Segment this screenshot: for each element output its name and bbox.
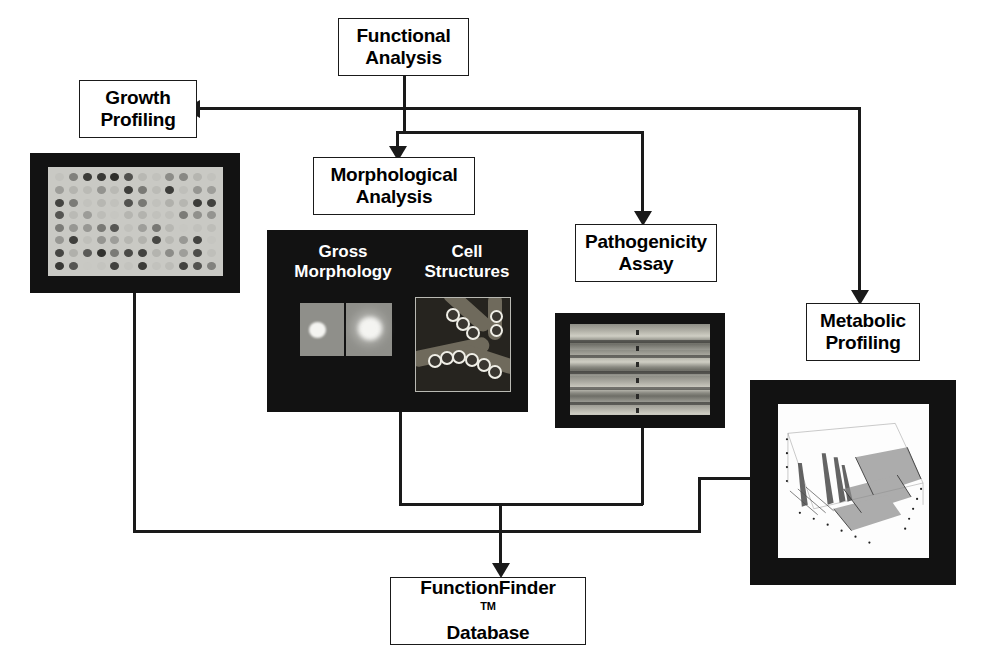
plate-well xyxy=(165,186,174,194)
functionfinder-database-line1: FunctionFinderTM xyxy=(420,577,555,622)
plate-well xyxy=(165,173,174,181)
plate-well xyxy=(165,224,174,232)
plate-well xyxy=(165,249,174,257)
plate-well xyxy=(55,199,64,207)
connector-chromatogram-stub xyxy=(699,477,754,480)
plate-well xyxy=(110,199,119,207)
plate-well xyxy=(110,249,119,257)
plate-well xyxy=(55,186,64,194)
leaf-midrib-mark xyxy=(636,362,639,367)
plate-well xyxy=(97,199,106,207)
growth-profiling-line1: Growth xyxy=(105,87,170,109)
plate-well xyxy=(165,199,174,207)
plate-well xyxy=(193,224,202,232)
connector-pathogenicity-leg xyxy=(641,131,644,213)
leaf-midrib-mark xyxy=(636,378,639,383)
leaf-midrib-mark xyxy=(636,346,639,351)
panel-morphology-image: Gross Morphology Cell Structures xyxy=(267,230,528,412)
plate-well xyxy=(83,262,92,270)
connector-level2-horizontal xyxy=(397,131,644,134)
cell-ring xyxy=(452,350,466,364)
plate-well xyxy=(110,211,119,219)
plate-well xyxy=(69,173,78,181)
label-gross-morphology: Gross Morphology xyxy=(283,242,403,281)
plate-well xyxy=(124,173,133,181)
gross-morphology-pane-right xyxy=(346,303,392,356)
panel-growth-plate-image xyxy=(30,153,240,293)
node-growth-profiling[interactable]: Growth Profiling xyxy=(79,80,197,138)
plate-well xyxy=(69,249,78,257)
arrowhead-functionfinder-database xyxy=(492,563,510,578)
plate-well xyxy=(55,262,64,270)
plate-area xyxy=(48,167,223,276)
connector-morphology-panel-down xyxy=(399,411,402,505)
plate-well xyxy=(152,262,161,270)
plate-well xyxy=(152,173,161,181)
node-metabolic-profiling[interactable]: Metabolic Profiling xyxy=(806,303,920,361)
plate-well xyxy=(97,173,106,181)
plate-well xyxy=(193,262,202,270)
plate-well xyxy=(69,211,78,219)
functionfinder-database-line2: Database xyxy=(447,622,530,644)
leaf-dark-band xyxy=(570,340,710,343)
plate-well xyxy=(69,199,78,207)
leaf-dark-band xyxy=(570,402,710,405)
leaf-dark-band xyxy=(570,371,710,374)
plate-well xyxy=(165,236,174,244)
plate-well xyxy=(124,249,133,257)
connector-mid-horizontal xyxy=(399,503,643,506)
plate-well xyxy=(138,186,147,194)
cell-ring xyxy=(490,310,503,323)
plate-well xyxy=(179,186,188,194)
connector-leaf-panel-down xyxy=(641,428,644,505)
connector-chromatogram-down xyxy=(698,477,701,533)
plate-well xyxy=(207,249,216,257)
plate-well xyxy=(152,249,161,257)
cell-ring xyxy=(466,326,480,340)
gross-morphology-pane-left xyxy=(300,303,344,356)
node-pathogenicity-assay[interactable]: Pathogenicity Assay xyxy=(575,224,717,282)
plate-well xyxy=(152,186,161,194)
leaf-midrib-mark xyxy=(636,408,639,413)
plate-well xyxy=(193,249,202,257)
plate-well xyxy=(207,173,216,181)
plate-well xyxy=(193,186,202,194)
plate-well xyxy=(138,173,147,181)
connector-bottom-long-horizontal xyxy=(133,530,699,533)
pathogenicity-assay-line2: Assay xyxy=(619,253,674,275)
plate-well xyxy=(83,236,92,244)
plate-well xyxy=(207,211,216,219)
plate-well xyxy=(110,173,119,181)
plate-well xyxy=(97,224,106,232)
plate-well xyxy=(124,236,133,244)
plate-well xyxy=(193,173,202,181)
cell-ring xyxy=(490,324,503,337)
morphological-analysis-line2: Analysis xyxy=(356,186,433,208)
plate-well xyxy=(97,211,106,219)
plate-well xyxy=(97,249,106,257)
plate-well xyxy=(55,173,64,181)
leaf-dark-band xyxy=(570,355,710,358)
node-functionfinder-database[interactable]: FunctionFinderTM Database xyxy=(390,577,586,645)
connector-functional-trunk xyxy=(403,75,406,133)
cell-structures-micrograph xyxy=(415,297,511,392)
plate-well xyxy=(207,236,216,244)
plate-well xyxy=(124,211,133,219)
diagram-canvas: Functional Analysis Growth Profiling Mor… xyxy=(0,0,986,670)
plate-well xyxy=(179,199,188,207)
plate-well xyxy=(124,186,133,194)
trademark-symbol: TM xyxy=(480,600,495,612)
plate-well xyxy=(179,236,188,244)
functional-analysis-line1: Functional xyxy=(356,25,450,47)
plate-well xyxy=(55,211,64,219)
plate-well xyxy=(110,224,119,232)
connector-level1-horizontal xyxy=(198,107,860,110)
functional-analysis-line2: Analysis xyxy=(365,47,442,69)
plate-well xyxy=(138,224,147,232)
plate-well xyxy=(83,249,92,257)
colony-blob-halo xyxy=(352,311,386,345)
plate-well xyxy=(97,262,106,270)
node-functional-analysis[interactable]: Functional Analysis xyxy=(338,18,469,76)
node-morphological-analysis[interactable]: Morphological Analysis xyxy=(313,157,475,215)
plate-well xyxy=(179,262,188,270)
